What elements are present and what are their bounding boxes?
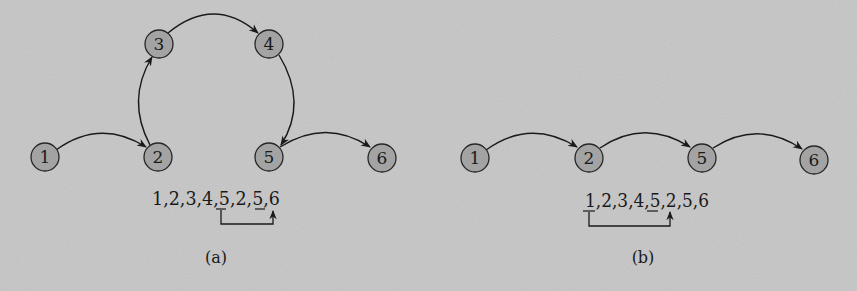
node-4: 4	[255, 30, 283, 58]
node-6-b: 6	[800, 146, 828, 174]
node-2-b: 2	[575, 144, 603, 172]
path-compression-diagram: 1 2 3 4 5 6 1,2,3,4,5,2,5,6 (a)	[0, 0, 857, 291]
node-1: 1	[31, 143, 59, 171]
caption-a: (a)	[205, 248, 227, 267]
svg-text:1: 1	[40, 147, 51, 167]
node-3: 3	[145, 30, 173, 58]
svg-text:5: 5	[697, 148, 708, 168]
svg-text:1: 1	[470, 148, 481, 168]
svg-text:3: 3	[154, 34, 165, 54]
sequence-text-a: 1,2,3,4,5,2,5,6	[152, 187, 280, 209]
svg-text:4: 4	[264, 34, 275, 54]
node-6: 6	[368, 144, 396, 172]
background	[0, 0, 857, 291]
svg-text:6: 6	[809, 150, 820, 170]
node-5: 5	[255, 143, 283, 171]
node-5-b: 5	[688, 144, 716, 172]
node-2: 2	[144, 143, 172, 171]
svg-text:2: 2	[153, 147, 164, 167]
caption-b: (b)	[632, 248, 655, 267]
svg-text:5: 5	[264, 147, 275, 167]
svg-text:6: 6	[377, 148, 388, 168]
svg-text:2: 2	[584, 148, 595, 168]
sequence-text-b: 1,2,3,4,5,2,5,6	[585, 189, 709, 211]
node-1-b: 1	[461, 144, 489, 172]
